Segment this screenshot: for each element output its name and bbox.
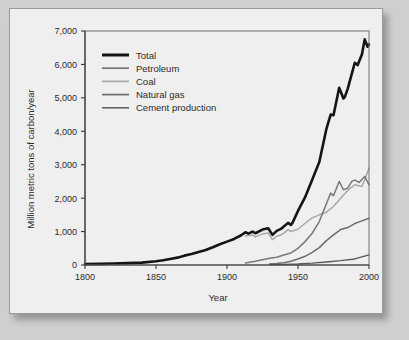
y-tick-label: 7,000 bbox=[54, 26, 77, 36]
y-tick-label: 2,000 bbox=[54, 194, 77, 204]
x-tick-label: 1950 bbox=[288, 272, 308, 282]
legend-label-total: Total bbox=[136, 50, 156, 61]
axes-layer: 01,0002,0003,0004,0005,0006,0007,0001800… bbox=[54, 26, 379, 282]
legend-label-coal: Coal bbox=[136, 76, 156, 87]
series-layer bbox=[85, 39, 369, 264]
legend-label-cement-production: Cement production bbox=[136, 102, 216, 113]
x-tick-label: 1850 bbox=[146, 272, 166, 282]
y-axis-title: Million metric tons of carbon/year bbox=[25, 89, 36, 228]
y-tick-label: 0 bbox=[72, 260, 77, 270]
figure-page: 01,0002,0003,0004,0005,0006,0007,0001800… bbox=[0, 0, 409, 340]
y-tick-label: 6,000 bbox=[54, 60, 77, 70]
line-chart: 01,0002,0003,0004,0005,0006,0007,0001800… bbox=[10, 9, 384, 315]
chart-container: 01,0002,0003,0004,0005,0006,0007,0001800… bbox=[10, 9, 384, 315]
figure-card: 01,0002,0003,0004,0005,0006,0007,0001800… bbox=[9, 8, 383, 314]
y-tick-label: 5,000 bbox=[54, 93, 77, 103]
x-tick-label: 1800 bbox=[75, 272, 95, 282]
series-line-total bbox=[85, 39, 369, 264]
y-tick-label: 1,000 bbox=[54, 227, 77, 237]
legend-layer: TotalPetroleumCoalNatural gasCement prod… bbox=[102, 50, 216, 114]
x-tick-label: 1900 bbox=[217, 272, 237, 282]
legend-label-natural-gas: Natural gas bbox=[136, 89, 185, 100]
plot-frame bbox=[85, 31, 369, 265]
x-tick-label: 2000 bbox=[359, 272, 379, 282]
x-axis-title: Year bbox=[208, 292, 227, 303]
legend-label-petroleum: Petroleum bbox=[136, 63, 179, 74]
y-tick-label: 4,000 bbox=[54, 127, 77, 137]
y-tick-label: 3,000 bbox=[54, 160, 77, 170]
